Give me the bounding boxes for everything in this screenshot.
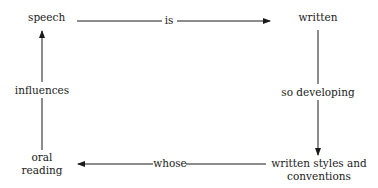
node-speech: speech [28, 11, 64, 24]
edge-label-whose: whose [152, 157, 188, 170]
node-oral-reading-line2: reading [20, 164, 64, 177]
node-written: written [298, 11, 338, 24]
node-oral-reading-line1: oral [20, 151, 64, 164]
edge-label-influences: influences [14, 84, 70, 97]
node-oral-reading: oral reading [20, 151, 64, 177]
edge-label-so-developing: so developing [280, 86, 356, 99]
node-written-styles-line1: written styles and [262, 157, 376, 170]
node-written-styles: written styles and conventions [262, 157, 376, 183]
edge-label-is: is [161, 14, 177, 27]
node-written-styles-line2: conventions [262, 170, 376, 183]
